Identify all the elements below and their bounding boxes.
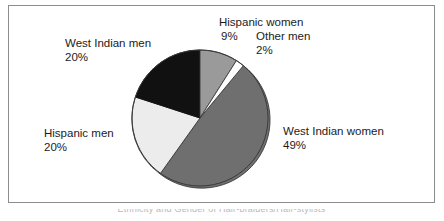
pie-label-other-men-percent: 2% (256, 43, 310, 57)
pie-label-other-men: Other men 2% (256, 29, 310, 57)
pie-label-west-indian-women-name: West Indian women (283, 124, 384, 138)
pie-label-hispanic-women-name: Hispanic women (219, 15, 303, 29)
pie-label-west-indian-men-percent: 20% (65, 50, 151, 64)
pie-label-hispanic-men-name: Hispanic men (44, 126, 114, 140)
pie-label-hispanic-men: Hispanic men 20% (44, 126, 114, 154)
figure-caption-text: Ethnicity and Gender of Hair-braiders/Ha… (8, 209, 435, 214)
pie-label-west-indian-men: West Indian men 20% (65, 36, 151, 64)
pie-label-west-indian-women: West Indian women 49% (283, 124, 384, 152)
figure-caption-clipped: Ethnicity and Gender of Hair-braiders/Ha… (8, 209, 435, 221)
pie-chart-area: Hispanic women 9% Other men 2% West Indi… (0, 0, 444, 221)
pie-label-other-men-name: Other men (256, 29, 310, 43)
pie-label-west-indian-men-name: West Indian men (65, 36, 151, 50)
pie-label-hispanic-men-percent: 20% (44, 140, 114, 154)
pie-chart-figure: Hispanic women 9% Other men 2% West Indi… (0, 0, 444, 221)
pie-label-west-indian-women-percent: 49% (283, 138, 384, 152)
